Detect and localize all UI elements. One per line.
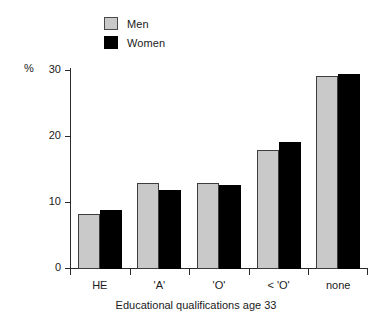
legend-swatch-men-icon — [104, 17, 118, 30]
x-category-label: 'O' — [189, 279, 249, 292]
x-axis-title: Educational qualifications age 33 — [0, 299, 392, 312]
legend-item-men: Men — [104, 14, 224, 33]
bar-group: 'A' — [137, 69, 181, 269]
x-category-label: 'A' — [130, 279, 190, 292]
bar-women — [279, 142, 301, 269]
bar-men — [78, 214, 100, 269]
legend-label-women: Women — [127, 37, 165, 49]
bar-men — [316, 76, 338, 269]
x-category-label: HE — [70, 279, 130, 292]
y-tick-2: 20 — [65, 136, 71, 137]
x-category-label: none — [308, 279, 368, 292]
y-tick-label-3: 30 — [49, 63, 61, 76]
bar-women — [338, 74, 360, 269]
legend-item-women: Women — [104, 33, 224, 52]
bar-group: none — [316, 69, 360, 269]
x-category-label: < 'O' — [249, 279, 309, 292]
plot-area: 0 10 20 30 HE 'A' 'O — [70, 68, 368, 270]
x-tick-2 — [189, 269, 190, 275]
x-tick-0 — [70, 269, 71, 275]
y-axis-line — [70, 68, 71, 269]
x-tick-3 — [249, 269, 250, 275]
bar-group: 'O' — [197, 69, 241, 269]
y-axis-title: % — [24, 62, 34, 75]
bar-women — [100, 210, 122, 269]
chart-legend: Men Women — [104, 14, 224, 52]
bar-group: HE — [78, 69, 122, 269]
y-tick-3: 30 — [65, 70, 71, 71]
bar-women — [219, 185, 241, 269]
y-tick-label-2: 20 — [49, 129, 61, 142]
bar-men — [197, 183, 219, 269]
bar-group: < 'O' — [257, 69, 301, 269]
bar-chart-figure: Men Women % 0 10 20 30 — [0, 0, 392, 325]
x-tick-4 — [308, 269, 309, 275]
y-tick-1: 10 — [65, 202, 71, 203]
bar-men — [257, 150, 279, 269]
x-tick-1 — [130, 269, 131, 275]
y-tick-label-1: 10 — [49, 195, 61, 208]
bar-men — [137, 183, 159, 269]
x-tick-5 — [367, 269, 368, 275]
bar-women — [159, 190, 181, 269]
legend-label-men: Men — [127, 18, 149, 30]
y-tick-label-0: 0 — [55, 261, 61, 274]
legend-swatch-women-icon — [104, 36, 118, 49]
